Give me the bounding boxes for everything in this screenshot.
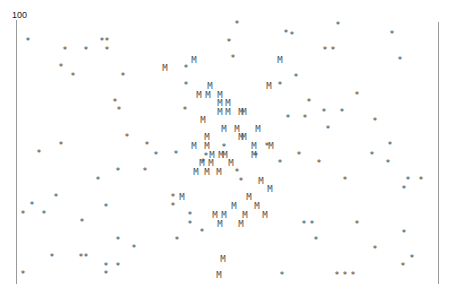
star-marker: * [83,46,88,55]
star-marker: * [289,31,294,40]
m-marker: M [268,142,273,151]
star-marker: * [115,167,120,176]
star-marker: * [41,210,46,219]
m-marker: M [251,151,256,160]
star-marker: * [313,236,318,245]
star-marker: * [372,245,377,254]
star-marker: * [104,46,109,55]
star-marker: * [226,38,231,47]
star-marker: * [387,141,392,150]
m-marker: M [241,133,246,142]
star-marker: * [103,203,108,212]
m-marker: M [267,185,272,194]
m-marker: M [220,255,225,264]
m-marker: M [179,193,184,202]
star-marker: * [142,167,147,176]
star-marker: * [53,193,58,202]
star-marker: * [397,56,402,65]
star-marker: * [120,72,125,81]
star-marker: * [131,244,136,253]
star-marker: * [116,106,121,115]
star-marker: * [29,201,34,210]
star-marker: * [316,159,321,168]
m-marker: M [241,108,246,117]
m-marker: M [231,202,236,211]
star-marker: * [199,228,204,237]
star-marker: * [20,210,25,219]
star-marker: * [330,46,335,55]
star-marker: * [182,106,187,115]
star-marker: * [285,114,290,123]
star-marker: * [36,149,41,158]
star-marker: * [103,270,108,279]
star-marker: * [170,202,175,211]
star-marker: * [70,72,75,81]
star-marker: * [372,117,377,126]
star-marker: * [234,20,239,29]
star-marker: * [354,220,359,229]
m-marker: M [238,220,243,229]
star-marker: * [174,236,179,245]
star-marker: * [401,229,406,238]
m-marker: M [262,211,267,220]
star-marker: * [173,150,178,159]
star-marker: * [401,185,406,194]
star-marker: * [369,151,374,160]
m-marker: M [277,56,282,65]
star-marker: * [296,151,301,160]
m-marker: M [228,159,233,168]
star-marker: * [277,159,282,168]
star-marker: * [183,81,188,90]
star-marker: * [418,176,423,185]
star-marker: * [339,108,344,117]
star-marker: * [144,141,149,150]
star-marker: * [58,63,63,72]
star-marker: * [234,168,239,177]
star-marker: * [25,37,30,46]
m-marker: M [217,108,222,117]
star-marker: * [95,176,100,185]
m-marker: M [222,151,227,160]
star-marker: * [153,151,158,160]
star-marker: * [385,159,390,168]
y-axis-left [16,20,17,284]
star-marker: * [400,262,405,271]
m-marker: M [193,168,198,177]
m-marker: M [191,56,196,65]
m-marker: M [216,271,221,280]
m-marker: M [162,64,167,73]
star-marker: * [322,46,327,55]
m-marker: M [217,220,222,229]
star-marker: * [293,73,298,82]
m-marker: M [225,108,230,117]
y-axis-right [438,22,439,284]
m-marker: M [204,168,209,177]
star-marker: * [277,81,282,90]
star-marker: * [389,30,394,39]
m-marker: M [258,177,263,186]
m-marker: M [191,142,196,151]
m-marker: M [205,91,210,100]
star-marker: * [115,262,120,271]
star-marker: * [58,141,63,150]
star-marker: * [20,270,25,279]
star-marker: * [306,98,311,107]
star-marker: * [238,177,243,186]
m-marker: M [216,168,221,177]
star-marker: * [115,236,120,245]
m-marker: M [255,125,260,134]
star-marker: * [334,271,339,280]
m-marker: M [196,91,201,100]
m-marker: M [254,202,259,211]
star-marker: * [62,46,67,55]
y-tick-label-100: 100 [12,10,27,20]
star-marker: * [354,91,359,100]
star-marker: * [301,220,306,229]
star-marker: * [187,220,192,229]
m-marker: M [200,116,205,125]
star-marker: * [309,220,314,229]
m-marker: M [246,193,251,202]
star-marker: * [302,114,307,123]
star-marker: * [325,125,330,134]
star-marker: * [342,271,347,280]
